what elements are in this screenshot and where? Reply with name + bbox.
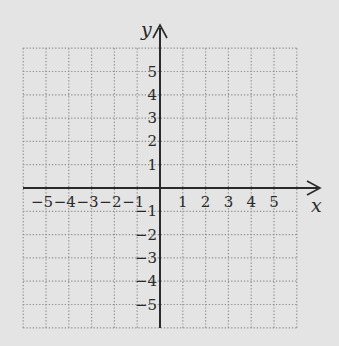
y-tick-label: 4 bbox=[147, 86, 157, 104]
x-tick-label: 4 bbox=[246, 193, 256, 211]
x-tick-label: 3 bbox=[224, 193, 234, 211]
x-tick-label: −3 bbox=[77, 193, 99, 211]
y-tick-label: 5 bbox=[147, 63, 157, 81]
x-axis-label: x bbox=[311, 194, 322, 216]
y-tick-label: 2 bbox=[147, 132, 157, 150]
y-tick-label: −4 bbox=[135, 272, 157, 290]
coordinate-plane: x y −5−4−3−2−112345 54321−1−2−3−4−5 bbox=[0, 0, 339, 346]
x-tick-label: −4 bbox=[54, 193, 76, 211]
x-tick-label: 1 bbox=[178, 193, 188, 211]
x-tick-label: −5 bbox=[31, 193, 53, 211]
x-tick-label: −2 bbox=[99, 193, 121, 211]
y-tick-label: −5 bbox=[135, 296, 157, 314]
x-tick-label: 2 bbox=[201, 193, 211, 211]
y-tick-label: −2 bbox=[135, 226, 157, 244]
y-tick-label: −3 bbox=[135, 249, 157, 267]
y-tick-label: 1 bbox=[147, 156, 157, 174]
y-tick-label: 3 bbox=[147, 109, 157, 127]
y-tick-label: −1 bbox=[135, 202, 157, 220]
y-axis-label: y bbox=[140, 18, 152, 40]
x-tick-label: 5 bbox=[269, 193, 279, 211]
